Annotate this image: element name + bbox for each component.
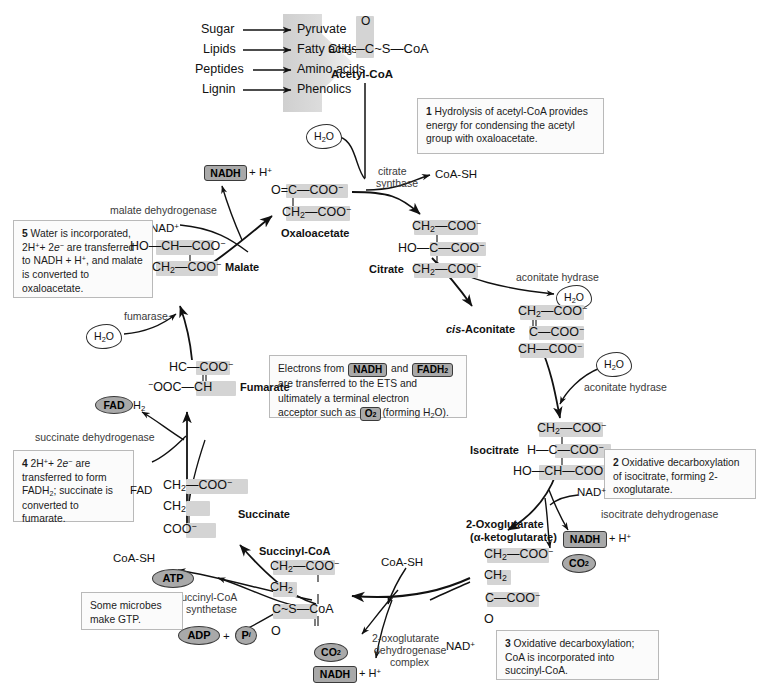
- water-label: H2O: [314, 130, 334, 144]
- coa-sh-oxoglutarate: CoA-SH: [381, 556, 423, 568]
- nad-plus-oxoglutarate: NAD+: [446, 640, 475, 652]
- ets-note-line1-a: Electrons from: [278, 363, 347, 374]
- enzyme-aconitate-hydrase-2: aconitate hydrase: [584, 382, 667, 393]
- cis-aconitate-name: cis-Aconitate: [446, 324, 515, 336]
- input-source-peptides: Peptides: [195, 63, 244, 76]
- malate-name: Malate: [225, 262, 259, 274]
- pi-pill: Pi: [235, 626, 257, 645]
- step-3-text: Oxidative decarboxylation; CoA is incorp…: [505, 638, 634, 676]
- citrate-line-3: CH2—COO−: [412, 262, 481, 277]
- enzyme-citrate-synthase-line1: citrate: [378, 166, 407, 177]
- step-4-text: 2H++ 2e− are transferred to form FADH2; …: [22, 458, 113, 524]
- enzyme-isocitrate-dehydrogenase: isocitrate dehydrogenase: [601, 509, 718, 520]
- enzyme-oxoglutarate-complex-l1: 2-oxoglutarate: [372, 633, 439, 644]
- step-2-box: 2 Oxidative decarboxylation of isocitrat…: [604, 449, 756, 499]
- input-source-sugar: Sugar: [201, 23, 234, 36]
- acetyl-coa-oxygen-label: O: [361, 15, 370, 28]
- adp-pill: ADP: [178, 626, 220, 645]
- acetyl-coa-formula: CH3—C~S—CoA: [328, 42, 429, 58]
- malate-line-2: CH2—COO−: [152, 260, 221, 275]
- ets-note-line1-b: and: [388, 363, 411, 374]
- nadh-pill-inline: NADH: [348, 363, 387, 377]
- oxaloacetate-line-2: CH2—COO−: [282, 205, 351, 220]
- input-product-pyruvate: Pyruvate: [297, 23, 346, 36]
- succinate-highlight-2: [186, 501, 210, 516]
- oxoglutarate-synonym: (α-ketoglutarate): [470, 532, 557, 544]
- nadh-pill-malate: NADH: [204, 165, 247, 181]
- citrate-line-2: HO—C—COO−: [398, 241, 484, 255]
- co2-pill-isocitrate: CO2: [562, 554, 596, 573]
- co2-pill-oxoglutarate: CO2: [314, 643, 348, 662]
- succinyl-coa-line-2: CH2: [270, 581, 293, 595]
- succinyl-coa-line-3: C~S—CoA: [272, 603, 333, 616]
- step-4-box: 4 2H++ 2e− are transferred to form FADH2…: [13, 450, 134, 522]
- enzyme-fumarase: fumarase: [124, 311, 168, 322]
- step-1-text: Hydrolysis of acetyl-CoA provides energy…: [426, 106, 588, 144]
- gtp-note-box: Some microbes make GTP.: [81, 592, 183, 630]
- enzyme-succinyl-coa-synthetase-l1: succinyl-CoA: [176, 592, 237, 603]
- oxoglutarate-line-2: CH2: [484, 569, 507, 583]
- step-1-number: 1: [426, 106, 432, 117]
- enzyme-malate-dehydrogenase: malate dehydrogenase: [110, 205, 217, 216]
- step-5-text: Water is incorporated, 2H++ 2e− are tran…: [22, 228, 143, 294]
- oxaloacetate-name: Oxaloacetate: [281, 228, 349, 240]
- input-source-lipids: Lipids: [203, 43, 236, 56]
- fumarate-line-2: −OOC—CH: [148, 380, 212, 394]
- nad-plus-isocitrate: NAD+: [577, 486, 606, 498]
- o2-pill-inline: O2: [360, 407, 382, 421]
- citrate-line-1: CH2—COO−: [412, 219, 481, 234]
- enzyme-citrate-synthase-line2: synthase: [376, 178, 418, 189]
- nad-plus-malate: NAD+: [150, 222, 179, 234]
- cis-aconitate-line-1: CH2—COO−: [518, 304, 587, 319]
- step-2-number: 2: [613, 457, 619, 468]
- succinate-line-1: CH2—COO−: [163, 478, 232, 493]
- oxoglutarate-line-1: CH2—COO−: [484, 547, 553, 562]
- succinyl-coa-name: Succinyl-CoA: [259, 546, 331, 558]
- succinyl-coa-line-1: CH2—COO−: [270, 559, 339, 574]
- succinyl-coa-line-4: O: [271, 625, 281, 638]
- step-2-text: Oxidative decarboxylation of isocitrate,…: [613, 457, 740, 495]
- ets-note-line3: ultimately a terminal electron: [278, 393, 409, 404]
- nadh-oxoglutarate-suffix: + H+: [359, 668, 381, 680]
- isocitrate-name: Isocitrate: [470, 445, 519, 457]
- fadh2-suffix: H2: [133, 400, 145, 413]
- enzyme-oxoglutarate-complex-l3: complex: [390, 657, 429, 668]
- oxoglutarate-name: 2-Oxoglutarate: [466, 519, 544, 531]
- water-label-4: H2O: [94, 330, 114, 344]
- oxoglutarate-line-3: C—COO−: [485, 591, 540, 605]
- succinate-line-2: CH2: [163, 500, 186, 514]
- citrate-name: Citrate: [369, 264, 404, 276]
- cis-aconitate-line-3: CH—COO−: [518, 342, 582, 356]
- step-5-number: 5: [22, 228, 28, 239]
- acetyl-coa-name: Acetyl-CoA: [331, 68, 393, 80]
- nadh-pill-isocitrate: NADH: [563, 531, 607, 548]
- ets-note-line4-b: (forming H2O).: [382, 407, 448, 418]
- nadh-malate-suffix: + H+: [249, 166, 272, 178]
- fumarate-line-1: HC—COO−: [169, 360, 233, 374]
- gtp-note-line2: make GTP.: [90, 614, 141, 625]
- water-label-3: H2O: [604, 358, 624, 372]
- oxaloacetate-line-1: O=C—COO−: [271, 183, 343, 197]
- diagram-canvas: Sugar Pyruvate Lipids Fatty acids Peptid…: [0, 0, 767, 696]
- adp-plus-sign: +: [223, 630, 230, 642]
- step-4-number: 4: [22, 458, 28, 469]
- cis-aconitate-line-2: C—COO−: [529, 325, 584, 339]
- fumarate-name: Fumarate: [240, 382, 290, 394]
- water-blob-fumarase: H2O: [86, 324, 122, 349]
- ets-note-box: Electrons from NADH and FADH2 are transf…: [269, 355, 467, 418]
- water-blob-aconitate-2: H2O: [596, 352, 632, 377]
- atp-pill: ATP: [152, 569, 194, 588]
- ets-note-line2: are transferred to the ETS and: [278, 378, 417, 389]
- input-product-phenolics: Phenolics: [297, 83, 351, 96]
- isocitrate-line-1: CH2—COO−: [537, 421, 606, 436]
- fadh2-pill-inline: FADH2: [412, 363, 453, 377]
- nadh-pill-oxoglutarate: NADH: [313, 666, 357, 683]
- ets-note-line4-a: acceptor such as: [278, 407, 359, 418]
- succinate-name: Succinate: [238, 509, 290, 521]
- enzyme-succinate-dehydrogenase: succinate dehydrogenase: [35, 432, 155, 443]
- fadh2-pill: FAD: [95, 396, 133, 414]
- oxoglutarate-line-4: O: [484, 613, 494, 626]
- fad-label: FAD: [130, 484, 152, 496]
- enzyme-aconitate-hydrase-1: aconitate hydrase: [516, 272, 599, 283]
- coa-sh-citrate-synthase: CoA-SH: [435, 168, 477, 180]
